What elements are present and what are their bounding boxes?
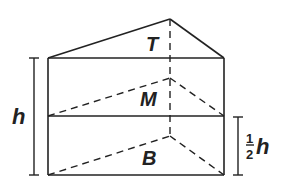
label-middle: M: [140, 88, 158, 110]
label-bottom: B: [142, 147, 156, 169]
bottom-right-dashed: [170, 136, 224, 175]
label-half-num: 1: [246, 131, 253, 146]
prism-diagram: T M B h 1 2 h: [0, 0, 286, 189]
label-top: T: [146, 33, 160, 55]
middle-right-dashed: [170, 78, 224, 116]
top-right-edge: [170, 19, 224, 58]
label-half-var: h: [256, 134, 269, 159]
label-half-den: 2: [246, 147, 253, 162]
label-height: h: [12, 104, 25, 129]
